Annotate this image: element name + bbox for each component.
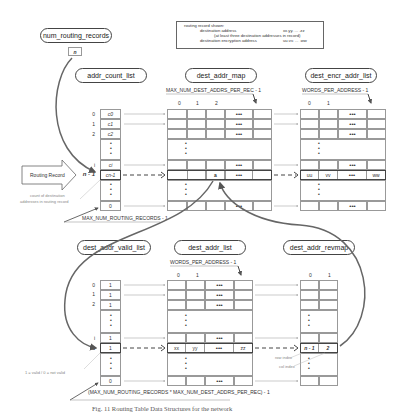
davl-index-a: a — [85, 345, 95, 351]
dal-cell — [234, 280, 253, 290]
darm-vdots2-icon: ••• — [307, 356, 311, 371]
deal-col-1: 1 — [327, 100, 330, 106]
dal-cell — [186, 300, 205, 310]
dam-col-1: 1 — [196, 100, 199, 106]
darm-cell — [300, 300, 319, 310]
darm-vdots-icon: ••• — [307, 313, 311, 328]
acl-index-i: i — [85, 162, 95, 168]
acl-index-0: 0 — [85, 111, 95, 117]
deal-cell — [300, 119, 319, 129]
dal-hl-xx: xx — [168, 344, 186, 352]
max-combined-label: (MAX_NUM_ROUTING_RECORDS * MAX_NUM_DEST_… — [88, 389, 270, 395]
darm-cell — [300, 333, 319, 343]
dest-addr-valid-list-node: dest_addr_valid_list — [77, 240, 151, 255]
deal-col-0: 0 — [308, 100, 311, 106]
dam-cell — [206, 119, 225, 129]
davl-index-2: 2 — [85, 301, 95, 307]
dal-cell — [167, 376, 186, 386]
davl-index-0: 0 — [85, 282, 95, 288]
count-note-1: count of destination — [30, 193, 65, 198]
dam-cell — [253, 129, 272, 139]
deal-ellipsis: ••• — [338, 129, 367, 139]
legend-box: routing record shown: destination addres… — [176, 21, 324, 49]
darm-cell — [319, 300, 338, 310]
deal-cell — [300, 160, 319, 170]
darm-col-0: 0 — [309, 272, 312, 278]
deal-cell — [319, 201, 338, 211]
max-routing-records-label: MAX_NUM_ROUTING_RECORDS - 1 — [82, 215, 168, 221]
dal-col-0: 0 — [177, 272, 180, 278]
dam-cell — [187, 171, 206, 179]
dam-ellipsis: ••• — [225, 201, 253, 211]
legend-encr-address-label: destination encryption address — [200, 38, 257, 43]
deal-cell — [367, 129, 386, 139]
darm-gap — [300, 353, 338, 376]
deal-cell — [300, 201, 319, 211]
dal-cell — [234, 290, 253, 300]
dam-vdots2-icon: ••• — [184, 182, 188, 197]
darm-gap — [300, 310, 338, 333]
dest-addr-map-node: dest_addr_map — [185, 68, 257, 83]
dam-highlight-a: a — [206, 171, 225, 179]
dest-addr-list-node: dest_addr_list — [174, 240, 246, 255]
dal-cell — [167, 300, 186, 310]
dest-encr-addr-list-node: dest_encr_addr_list — [305, 68, 377, 83]
davl-vdots-icon: ••• — [109, 313, 113, 328]
dam-cell — [206, 109, 225, 119]
acl-cell-n-1: cn-1 — [100, 170, 121, 180]
dam-cell — [167, 129, 187, 139]
figure-caption: Fig. 11 Routing Table Data Structures fo… — [92, 405, 232, 412]
row-index-note: row index — [275, 355, 292, 360]
dam-cell — [253, 201, 272, 211]
davl-cell-2: 1 — [100, 300, 121, 310]
deal-cell — [319, 129, 338, 139]
acl-vdots-icon: ••• — [109, 141, 113, 156]
deal-cell — [367, 109, 386, 119]
acl-cell-1: c1 — [100, 119, 121, 129]
words-per-address-bottom-label: WORDS_PER_ADDRESS - 1 — [170, 259, 236, 265]
dam-cell — [206, 129, 225, 139]
darm-cell — [319, 376, 338, 386]
davl-index-i: i — [85, 335, 95, 341]
deal-vdots-icon: ••• — [317, 141, 321, 156]
dam-ellipsis: ••• — [225, 109, 253, 119]
dal-ellipsis: ••• — [205, 280, 234, 290]
addr-count-list-node: addr_count_list — [75, 68, 147, 83]
deal-cell — [367, 201, 386, 211]
darm-cell — [300, 290, 319, 300]
deal-cell — [300, 129, 319, 139]
darm-hl-row-index: n - 1 — [301, 344, 319, 352]
dam-vdots-icon: ••• — [184, 141, 188, 156]
deal-hl-uu: uu — [301, 171, 319, 179]
dal-ellipsis: ••• — [205, 376, 234, 386]
deal-cell — [367, 119, 386, 129]
dal-hl-zz: zz — [234, 344, 252, 352]
dam-cell — [187, 129, 206, 139]
dal-cell — [186, 333, 205, 343]
dam-cell — [167, 201, 187, 211]
dam-cell — [206, 160, 225, 170]
darm-cell — [319, 280, 338, 290]
darm-col-1: 1 — [328, 272, 331, 278]
dest-addr-revmap-node: dest_addr_revmap — [283, 240, 355, 255]
dam-ellipsis: ••• — [225, 171, 253, 179]
dam-cell — [253, 119, 272, 129]
dal-cell — [167, 280, 186, 290]
dal-cell — [167, 333, 186, 343]
dal-cell — [234, 333, 253, 343]
routing-record-label: Routing Record — [30, 172, 65, 178]
legend-dest-address-label: destination address — [200, 28, 236, 33]
deal-cell — [319, 109, 338, 119]
dam-col-0: 0 — [178, 100, 181, 106]
legend-encr-address-value: uu.vv. ... .ww — [283, 38, 307, 43]
dal-ellipsis: ••• — [205, 290, 234, 300]
dal-cell — [186, 280, 205, 290]
acl-cell-2: c2 — [100, 129, 121, 139]
acl-cell-i: ci — [100, 160, 121, 170]
dam-col-2: 2 — [215, 100, 218, 106]
deal-ellipsis: ••• — [338, 201, 367, 211]
count-note-2: addresses in routing record — [20, 199, 68, 204]
deal-hl-vv: vv — [319, 171, 338, 179]
dal-cell — [186, 290, 205, 300]
dal-gap — [167, 353, 253, 376]
